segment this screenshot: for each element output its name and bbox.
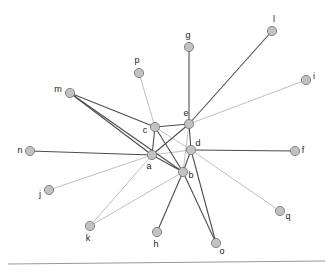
node-f[interactable]: f [290,145,304,155]
node-circle-p[interactable] [134,68,143,77]
edge-c-d [155,127,191,150]
node-d[interactable]: d [186,138,200,154]
edge-b-k [90,172,183,226]
edge-a-n [30,151,152,155]
network-diagram: abcdefghijklmnopq [0,0,332,276]
edge-m-c [70,93,155,127]
edge-b-h [157,172,183,232]
node-label-e: e [183,108,188,118]
node-label-i: i [313,71,315,81]
node-k[interactable]: k [85,221,94,243]
node-label-n: n [17,145,22,155]
node-label-o: o [219,246,224,256]
node-circle-a[interactable] [147,150,156,159]
edge-m-b [70,93,183,172]
node-circle-c[interactable] [150,122,159,131]
node-circle-q[interactable] [275,206,284,215]
edge-d-f [191,150,295,151]
node-circle-j[interactable] [44,185,53,194]
node-circle-b[interactable] [178,167,187,176]
node-n[interactable]: n [17,145,34,155]
node-circle-i[interactable] [301,75,310,84]
node-i[interactable]: i [301,71,315,84]
edge-c-p [139,73,155,127]
edge-m-a [70,93,152,155]
node-circle-m[interactable] [65,88,74,97]
annotation-layer [8,261,325,264]
node-label-f: f [302,145,305,155]
node-g[interactable]: g [184,30,193,51]
node-label-g: g [185,30,190,40]
node-l[interactable]: l [267,14,276,35]
node-label-q: q [285,211,290,221]
edge-layer [30,31,306,243]
node-h[interactable]: h [152,227,161,249]
node-label-m: m [54,84,62,94]
node-label-j: j [38,189,41,199]
node-label-a: a [146,161,151,171]
node-o[interactable]: o [211,238,224,256]
node-q[interactable]: q [275,206,290,221]
node-circle-e[interactable] [184,119,193,128]
node-label-k: k [86,233,91,243]
edge-e-i [189,80,306,124]
baseline-rule [8,261,325,264]
node-circle-n[interactable] [25,146,34,155]
node-layer: abcdefghijklmnopq [17,14,315,256]
node-label-c: c [143,125,148,135]
node-label-d: d [195,138,200,148]
node-circle-f[interactable] [290,146,299,155]
edge-c-e [155,124,189,127]
node-c[interactable]: c [143,122,160,135]
node-label-h: h [153,239,158,249]
edge-d-q [191,150,280,211]
node-label-b: b [188,170,193,180]
node-circle-h[interactable] [152,227,161,236]
edge-e-l [189,31,272,124]
node-m[interactable]: m [54,84,74,97]
node-a[interactable]: a [146,150,156,171]
node-p[interactable]: p [134,55,143,77]
graph-canvas: abcdefghijklmnopq [0,0,332,276]
node-circle-d[interactable] [186,145,195,154]
node-circle-g[interactable] [184,42,193,51]
node-circle-l[interactable] [267,26,276,35]
node-label-p: p [134,55,139,65]
node-j[interactable]: j [38,185,54,199]
node-circle-k[interactable] [85,221,94,230]
node-label-l: l [273,14,275,24]
